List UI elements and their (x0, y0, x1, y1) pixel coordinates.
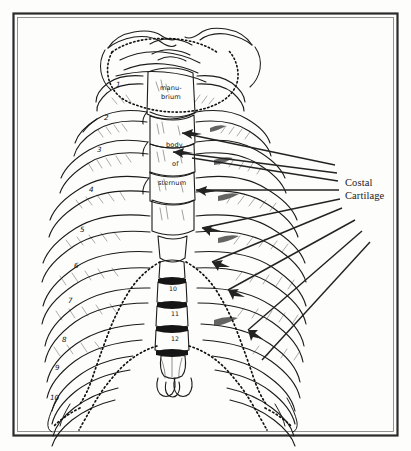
rib-number-1: 1 (116, 80, 121, 89)
paper-background (0, 0, 411, 451)
costal-cartilage-label-line2: Cartilage (345, 190, 385, 201)
rib-number-4: 4 (89, 185, 94, 194)
rib-number-9: 9 (55, 363, 60, 372)
rib-number-5: 5 (80, 225, 85, 234)
vertebra-number-11: 11 (171, 310, 179, 317)
rib-number-3: 3 (97, 145, 102, 154)
rib-number-2: 2 (104, 113, 109, 122)
sternum-label-sternum: sternum (158, 179, 186, 187)
rib-cage-illustration: Costal Cartilage manu- brium body of ste… (0, 0, 411, 451)
sternum-label-body: body (166, 141, 183, 149)
costal-cartilage-label-line1: Costal (345, 177, 372, 188)
anatomy-figure-container: Costal Cartilage manu- brium body of ste… (0, 0, 411, 451)
rib-number-10: 10 (50, 393, 60, 402)
vertebra-number-10: 10 (169, 285, 177, 292)
vertebra-number-12: 12 (171, 335, 179, 342)
rib-number-6: 6 (74, 261, 79, 270)
sternum-label-manubrium-lower: brium (161, 93, 181, 101)
sternum-label-manubrium-upper: manu- (160, 84, 182, 92)
sternum-label-of: of (172, 160, 179, 168)
rib-number-7: 7 (68, 296, 73, 305)
rib-number-8: 8 (62, 335, 67, 344)
